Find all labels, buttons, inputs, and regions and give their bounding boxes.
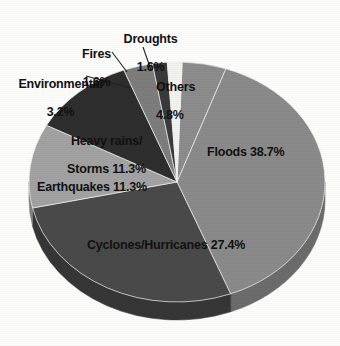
slice-label-heavy-rains-line1: Heavy rains/	[71, 134, 142, 148]
pie-chart-figure: Others 4.8%Floods 38.7%Cyclones/Hurrican…	[0, 0, 340, 346]
slice-label-others-name: Others	[156, 80, 195, 94]
slice-label-heavy-rains: Heavy rains/ Storms 11.3%	[46, 120, 154, 190]
slice-label-environmental-name: Environmental	[18, 77, 102, 91]
slice-label-fires-name: Fires	[82, 47, 111, 61]
slice-label-environmental-pct: 3.2%	[47, 105, 75, 119]
slice-label-others-pct: 4.8%	[156, 108, 184, 122]
slice-label-cyclones: Cyclones/Hurricanes 27.4%	[87, 238, 245, 252]
slice-label-floods: Floods 38.7%	[207, 145, 284, 159]
slice-label-droughts-name: Droughts	[124, 32, 178, 46]
slice-label-heavy-rains-line2: Storms 11.3%	[67, 162, 146, 176]
